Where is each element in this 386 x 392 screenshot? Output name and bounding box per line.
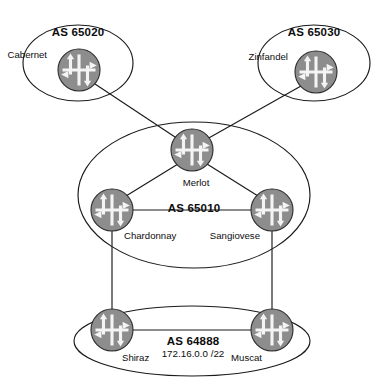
- router-cabernet[interactable]: [58, 49, 100, 91]
- router-label-shiraz: Shiraz: [122, 352, 149, 363]
- network-diagram-canvas: AS 65020 AS 65030 AS 65010 AS 64888 172.…: [0, 0, 386, 392]
- router-label-chardonnay: Chardonnay: [124, 230, 176, 241]
- router-zinfandel[interactable]: [295, 51, 337, 93]
- router-sangiovese[interactable]: [251, 189, 293, 231]
- as-subnet-as64888: 172.16.0.0 /22: [162, 348, 225, 359]
- link-cabernet-merlot: [95, 84, 178, 139]
- router-label-merlot: Merlot: [183, 177, 210, 188]
- router-shiraz[interactable]: [91, 309, 133, 351]
- router-label-muscat: Muscat: [231, 352, 262, 363]
- router-label-cabernet: Cabernet: [8, 49, 48, 60]
- router-label-zinfandel: Zinfandel: [249, 51, 288, 62]
- as-label-as65010: AS 65010: [168, 202, 221, 214]
- link-merlot-sangiovese: [207, 164, 258, 196]
- router-muscat[interactable]: [251, 309, 293, 351]
- router-label-sangiovese: Sangiovese: [210, 230, 260, 241]
- as-label-as65030: AS 65030: [288, 26, 341, 38]
- as-label-as65020: AS 65020: [52, 26, 105, 38]
- link-zinfandel-merlot: [207, 86, 301, 139]
- link-merlot-chardonnay: [126, 164, 178, 196]
- router-merlot[interactable]: [171, 129, 213, 171]
- network-diagram: AS 65020 AS 65030 AS 65010 AS 64888 172.…: [0, 0, 386, 392]
- as-label-as64888: AS 64888: [167, 335, 220, 347]
- router-chardonnay[interactable]: [91, 189, 133, 231]
